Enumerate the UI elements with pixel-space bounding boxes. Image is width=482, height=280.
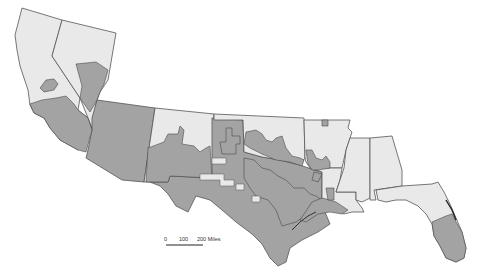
map-canvas: 0 100 200 Miles <box>0 0 482 280</box>
region-north-arkansas[interactable] <box>322 120 328 126</box>
state-arizona[interactable] <box>86 100 155 182</box>
hole-new-mexico-1 <box>212 158 226 164</box>
hole-texas-3 <box>252 196 260 202</box>
scale-bar: 0 100 200 Miles <box>164 236 221 245</box>
scale-label-0: 0 <box>164 236 167 242</box>
scale-label-200-miles: 200 Miles <box>197 236 221 242</box>
region-south-florida[interactable] <box>432 214 466 262</box>
scale-label-100: 100 <box>179 236 188 242</box>
hole-texas-2 <box>236 184 244 190</box>
